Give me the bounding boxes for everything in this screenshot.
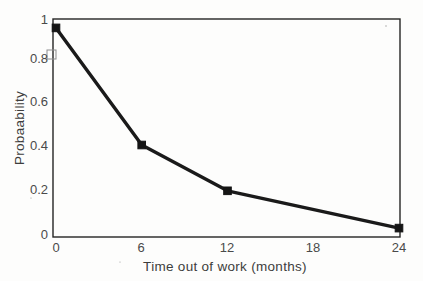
x-tick-label-12: 12 [220, 240, 234, 255]
data-point-marker [395, 224, 403, 232]
x-tick-label-0: 0 [52, 240, 59, 255]
x-tick-label-24: 24 [392, 240, 406, 255]
x-axis-title: Time out of work (months) [143, 259, 307, 274]
y-axis-tick-labels: 1 0.8 0.6 0.4 0.2 0 [30, 12, 48, 242]
line-chart: 1 0.8 0.6 0.4 0.2 0 0 6 12 18 24 Time ou… [0, 0, 423, 281]
y-tick-label-0-8: 0.8 [30, 51, 48, 66]
y-tick-label-0-2: 0.2 [30, 182, 48, 197]
data-point-marker [138, 141, 146, 149]
plot-frame [53, 19, 400, 237]
scan-artifacts [30, 25, 386, 262]
x-tick-label-18: 18 [306, 240, 320, 255]
y-tick-label-1: 1 [41, 12, 48, 27]
x-axis-tick-labels: 0 6 12 18 24 [52, 240, 406, 255]
y-tick-label-0: 0 [41, 227, 48, 242]
data-point-marker [52, 24, 60, 32]
x-tick-label-6: 6 [137, 240, 144, 255]
y-tick-label-0-4: 0.4 [30, 138, 48, 153]
data-point-marker [224, 187, 232, 195]
figure-canvas: 1 0.8 0.6 0.4 0.2 0 0 6 12 18 24 Time ou… [0, 0, 423, 281]
data-series-probability [52, 24, 403, 232]
y-axis-title: Probaability [12, 91, 27, 165]
y-tick-label-0-6: 0.6 [30, 94, 48, 109]
